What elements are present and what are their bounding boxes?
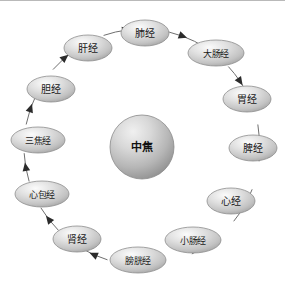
node-pijing-shape	[229, 135, 277, 161]
meridian-cycle-diagram: 中焦 肺经大肠经胃经脾经心经小肠经膀胱经肾经心包经三焦经胆经肝经	[0, 1, 285, 286]
node-sanjiaojing[interactable]: 三焦经	[11, 127, 65, 153]
node-dachangjing-shape	[188, 40, 244, 66]
center-node-group: 中焦	[110, 115, 174, 179]
node-danjing[interactable]: 胆经	[27, 76, 75, 102]
node-weijing[interactable]: 胃经	[223, 86, 271, 112]
node-pangguangjing[interactable]: 膀胱经	[110, 247, 166, 273]
node-xinbaojing[interactable]: 心包经	[15, 181, 69, 207]
arrow-shenjing-to-xinbaojing	[43, 213, 54, 224]
node-feijing-shape	[121, 20, 169, 46]
node-xinjing-shape	[207, 188, 255, 214]
node-sanjiaojing-shape	[11, 127, 65, 153]
node-xiaochangjing-shape	[165, 227, 221, 253]
node-ganjing-shape	[64, 35, 112, 61]
node-shenjing[interactable]: 肾经	[53, 226, 101, 252]
diagram-canvas: 中焦 肺经大肠经胃经脾经心经小肠经膀胱经肾经心包经三焦经胆经肝经	[0, 0, 285, 286]
node-xinjing[interactable]: 心经	[207, 188, 255, 214]
arrow-sanjiaojing-to-danjing	[26, 103, 36, 114]
center-node-circle	[110, 115, 174, 179]
node-dachangjing[interactable]: 大肠经	[188, 40, 244, 66]
arrow-xinbaojing-to-sanjiaojing	[21, 162, 30, 172]
arrow-feijing-to-dachangjing	[178, 31, 189, 41]
node-pijing[interactable]: 脾经	[229, 135, 277, 161]
node-shenjing-shape	[53, 226, 101, 252]
node-feijing[interactable]: 肺经	[121, 20, 169, 46]
node-danjing-shape	[27, 76, 75, 102]
node-weijing-shape	[223, 86, 271, 112]
arrow-dachangjing-to-weijing	[235, 76, 246, 87]
node-ganjing[interactable]: 肝经	[64, 35, 112, 61]
node-xinbaojing-shape	[15, 181, 69, 207]
arrow-pangguangjing-to-shenjing	[88, 249, 99, 259]
node-pangguangjing-shape	[110, 247, 166, 273]
node-xiaochangjing[interactable]: 小肠经	[165, 227, 221, 253]
